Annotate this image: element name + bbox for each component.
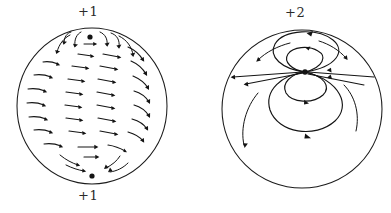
flow-segment bbox=[98, 79, 114, 82]
south-pole-singularity-dot bbox=[89, 173, 94, 178]
flow-row bbox=[29, 117, 148, 131]
arrow-head bbox=[117, 55, 121, 59]
flow-arc bbox=[108, 145, 125, 151]
flow-arc bbox=[132, 119, 147, 129]
left-sphere-drawing bbox=[0, 0, 196, 213]
arrow-head bbox=[73, 44, 78, 48]
arrow-head bbox=[123, 148, 127, 152]
flow-segment bbox=[78, 54, 92, 56]
arrow-head bbox=[85, 66, 89, 70]
arrow-head bbox=[105, 43, 110, 47]
flow-row bbox=[34, 130, 144, 143]
dipole-lobe-upper-outer bbox=[273, 32, 339, 72]
flow-segment bbox=[66, 118, 81, 120]
flow-arc bbox=[128, 47, 143, 60]
arrow-head bbox=[81, 79, 85, 83]
flow-arc bbox=[60, 155, 78, 165]
north-pole-flow-group bbox=[62, 32, 121, 49]
arrow-head bbox=[304, 134, 311, 139]
arrow-head bbox=[56, 62, 60, 66]
flow-row bbox=[28, 89, 150, 104]
arrow-head bbox=[76, 163, 80, 167]
flow-arc bbox=[44, 144, 61, 146]
arrow-head bbox=[43, 89, 47, 93]
arrow-head bbox=[82, 131, 86, 135]
arrow-head bbox=[82, 169, 86, 173]
sphere-outline-right bbox=[222, 30, 382, 188]
dipole-lobe-upper-inner bbox=[287, 47, 323, 72]
arrow-head bbox=[114, 132, 118, 136]
flow-arc bbox=[131, 61, 146, 74]
flow-arc bbox=[34, 75, 51, 77]
flow-segment bbox=[97, 92, 113, 95]
dipole-inflow-left-lower bbox=[246, 73, 303, 84]
arrow-head bbox=[243, 143, 248, 148]
flow-arc bbox=[100, 32, 107, 45]
flow-arc bbox=[34, 130, 51, 132]
flow-arc bbox=[43, 62, 58, 64]
south-pole-flow-group bbox=[60, 155, 128, 179]
figure-root: +1 +1 bbox=[0, 0, 391, 213]
flow-row bbox=[44, 144, 127, 153]
flow-row bbox=[34, 75, 149, 90]
flow-row bbox=[27, 103, 150, 118]
arrow-head bbox=[44, 117, 48, 121]
arrow-head bbox=[42, 103, 46, 107]
separatrix-lower-right bbox=[344, 85, 357, 131]
flow-segment bbox=[97, 105, 113, 108]
arrow-head bbox=[95, 155, 99, 159]
arrow-head bbox=[49, 75, 53, 79]
arrow-head bbox=[231, 75, 236, 80]
flow-row bbox=[43, 61, 147, 76]
arrow-head bbox=[116, 45, 121, 49]
arrow-head bbox=[327, 68, 332, 73]
flow-arc bbox=[133, 76, 148, 88]
flow-segment bbox=[66, 92, 81, 94]
arrow-head bbox=[111, 93, 115, 97]
flow-arc bbox=[75, 32, 81, 46]
flow-arc bbox=[134, 91, 149, 102]
flow-segment bbox=[100, 66, 116, 69]
arrow-head bbox=[59, 144, 63, 148]
flow-segment bbox=[65, 105, 80, 107]
arrow-head bbox=[49, 130, 53, 134]
arrow-head bbox=[94, 145, 98, 149]
separatrix-lower-left bbox=[243, 93, 258, 145]
flow-arc bbox=[134, 105, 149, 116]
flow-segment bbox=[98, 118, 114, 121]
arrow-head bbox=[90, 54, 94, 58]
panel-left-sphere: +1 +1 bbox=[0, 0, 196, 213]
flow-arc bbox=[29, 117, 46, 119]
flow-arc bbox=[66, 165, 84, 171]
arrow-head bbox=[114, 67, 118, 71]
arrow-head bbox=[244, 82, 249, 87]
arrow-head bbox=[112, 80, 116, 84]
arrow-head bbox=[79, 118, 83, 122]
flow-arc bbox=[106, 156, 120, 168]
arrow-head bbox=[112, 119, 116, 123]
flow-segment bbox=[72, 66, 87, 68]
right-sphere-drawing bbox=[196, 0, 391, 213]
arrow-head bbox=[111, 106, 115, 110]
flow-segment bbox=[100, 131, 116, 134]
arrow-head bbox=[93, 42, 97, 46]
panel-right-sphere: +2 bbox=[196, 0, 391, 213]
arrow-head bbox=[62, 41, 67, 45]
flow-arc bbox=[27, 103, 44, 105]
arrow-head bbox=[79, 92, 83, 96]
flow-arc bbox=[128, 132, 143, 141]
flow-arc bbox=[28, 89, 45, 91]
flow-segment bbox=[69, 131, 84, 133]
flow-arc bbox=[111, 33, 119, 47]
flow-segment bbox=[103, 54, 119, 57]
north-pole-singularity-dot bbox=[87, 34, 92, 39]
flow-segment bbox=[68, 79, 83, 81]
arrow-head bbox=[130, 53, 135, 57]
arrow-head bbox=[78, 105, 82, 109]
sphere-outline-left bbox=[17, 28, 167, 184]
